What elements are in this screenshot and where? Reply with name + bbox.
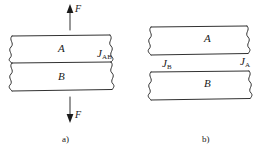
bar-a-material-label: A [58, 43, 65, 54]
force-bottom-label: F [75, 110, 81, 120]
flux-label-j-ab: JAB [97, 48, 112, 59]
panel-a-artwork [0, 0, 139, 153]
flux-subscript-j-ab: AB [102, 53, 112, 61]
flux-subscript-j-b: B [167, 63, 172, 71]
panel-a-caption: a) [62, 134, 69, 144]
bar-a-outline [148, 26, 250, 55]
bar-b-outline [148, 71, 252, 100]
force-top-label: F [75, 4, 81, 14]
force-top-arrow [67, 4, 74, 30]
panel-a: F F A B JAB a) [0, 0, 139, 153]
bar-b-material-label: B [204, 78, 211, 89]
flux-label-j-a: JA [240, 56, 250, 67]
flux-subscript-j-a: A [245, 61, 250, 69]
flux-label-j-b: JB [162, 58, 172, 69]
figure-diagram: F F A B JAB a) [0, 0, 279, 153]
bar-b-material-label: B [58, 71, 65, 82]
panel-b: A B JA JB b) [139, 0, 279, 153]
panel-b-caption: b) [202, 134, 210, 144]
bar-a-material-label: A [204, 33, 211, 44]
force-bottom-arrow [67, 97, 74, 123]
